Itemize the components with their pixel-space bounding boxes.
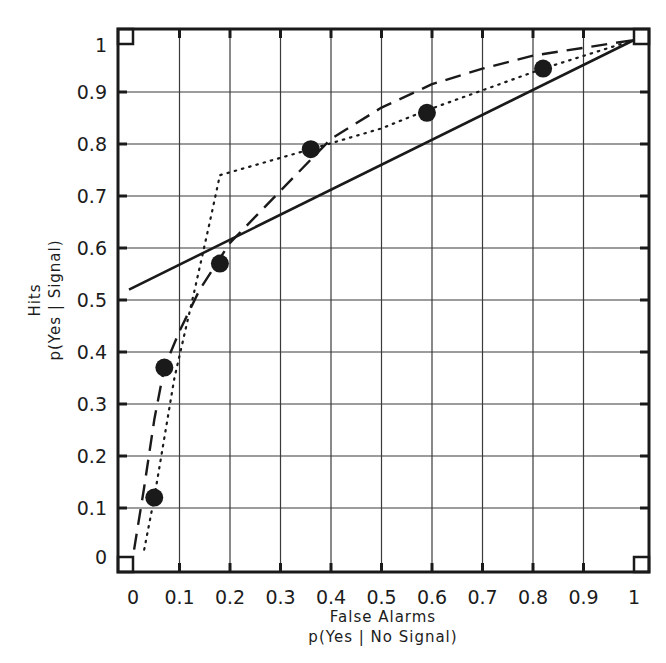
data-point [534,60,552,78]
x-tick-label: 0.6 [417,586,447,608]
data-point [155,359,173,377]
y-tick-label: 0.2 [77,445,107,467]
y-axis-title: Hits [26,283,44,316]
x-tick-label: 0.7 [467,586,497,608]
data-points [145,60,552,507]
data-point [418,104,436,122]
x-axis-subtitle: p(Yes | No Signal) [308,628,457,646]
y-axis-subtitle: p(Yes | Signal) [46,239,64,360]
data-point [302,140,320,158]
y-tick-label: 0.8 [77,133,107,155]
corner-square-top-left [118,29,133,44]
corner-square-top-right [634,29,649,44]
data-point [211,255,229,273]
dashed-line [134,40,634,550]
corner-square-origin [118,557,133,572]
x-axis-tick-labels: 00.10.20.30.40.50.60.70.80.91 [127,586,640,608]
x-tick-label: 1 [628,586,640,608]
x-axis-title: False Alarms [330,608,436,626]
data-point [145,489,163,507]
x-tick-label: 0.8 [518,586,548,608]
y-tick-label: 0.1 [77,497,107,519]
corner-square-bottom-right [634,557,649,572]
x-tick-label: 0.1 [164,586,194,608]
x-tick-label: 0.4 [316,586,346,608]
y-tick-label: 0.5 [77,289,107,311]
grid-lines [118,29,649,572]
y-tick-label: 0.6 [77,237,107,259]
dotted-line [144,40,634,550]
y-tick-label: 0.3 [77,393,107,415]
roc-chart: 00.10.20.30.40.50.60.70.80.91 00.10.20.3… [0,0,666,663]
y-axis-tick-labels: 00.10.20.30.40.50.60.70.80.91 [77,34,107,568]
x-tick-label: 0.9 [568,586,598,608]
y-tick-label: 0.9 [77,81,107,103]
y-tick-label: 0.7 [77,185,107,207]
y-tick-label: 1 [95,34,107,56]
y-tick-label: 0 [95,546,107,568]
x-tick-label: 0.2 [215,586,245,608]
x-tick-label: 0.3 [265,586,295,608]
y-tick-label: 0.4 [77,341,107,363]
x-tick-label: 0.5 [366,586,396,608]
x-tick-label: 0 [127,586,139,608]
